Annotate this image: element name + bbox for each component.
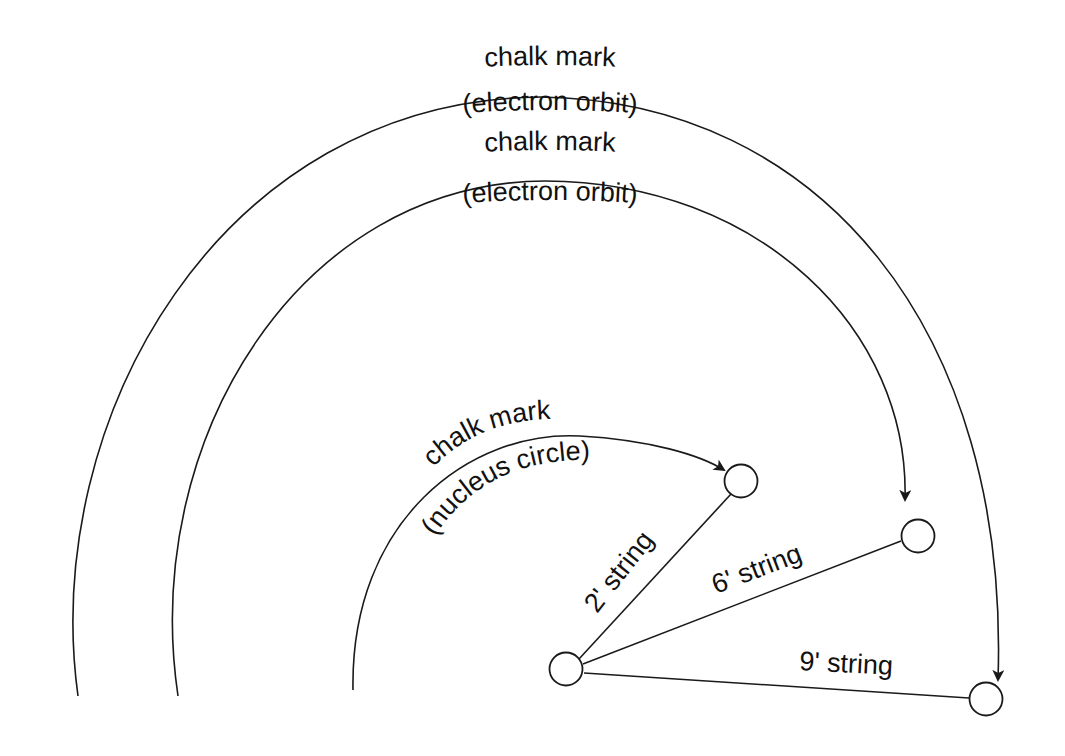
string-6-label: 6' string — [707, 538, 805, 600]
string-2-end-node — [725, 465, 758, 498]
string-9-line — [584, 673, 969, 698]
string-2-label: 2' string — [578, 525, 659, 617]
string-6-end-node — [902, 520, 935, 553]
outer-orbit-label-bottom: (electron orbit) — [461, 86, 638, 119]
center-node — [550, 653, 583, 686]
outer-orbit-label-top: chalk mark — [484, 41, 617, 73]
string-9-end-node — [970, 683, 1003, 716]
string-9-label: 9' string — [799, 646, 894, 681]
inner-orbit-label-top: chalk mark — [484, 126, 617, 158]
atom-diagram: chalk mark (electron orbit) chalk mark (… — [0, 0, 1065, 756]
inner-orbit-label-bottom: (electron orbit) — [461, 176, 638, 209]
